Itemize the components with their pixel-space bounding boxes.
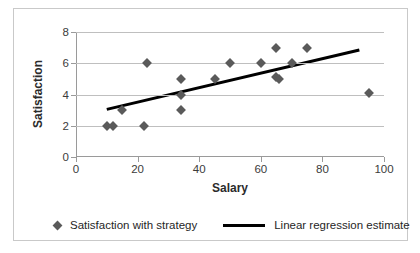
y-axis-tick bbox=[71, 126, 76, 127]
legend-item-regression: Linear regression estimate bbox=[223, 219, 410, 231]
x-axis-tick-label: 60 bbox=[254, 163, 267, 175]
diamond-marker-icon bbox=[53, 220, 63, 230]
chart-frame: Satisfaction Salary 02468020406080100 Sa… bbox=[13, 8, 408, 241]
y-axis-title: Satisfaction bbox=[31, 60, 45, 128]
x-axis-tick-label: 20 bbox=[131, 163, 144, 175]
gridline bbox=[76, 126, 384, 127]
chart-legend: Satisfaction with strategy Linear regres… bbox=[54, 215, 404, 235]
legend-item-scatter: Satisfaction with strategy bbox=[54, 219, 197, 231]
x-axis-tick bbox=[384, 157, 385, 162]
y-axis-tick-label: 6 bbox=[63, 57, 69, 69]
x-axis-tick bbox=[138, 157, 139, 162]
legend-label-scatter: Satisfaction with strategy bbox=[70, 219, 197, 231]
y-axis-tick-label: 8 bbox=[63, 26, 69, 38]
x-axis-tick-label: 100 bbox=[374, 163, 393, 175]
plot-area: 02468020406080100 bbox=[76, 32, 384, 157]
y-axis-tick bbox=[71, 95, 76, 96]
x-axis-tick bbox=[199, 157, 200, 162]
y-axis-tick-label: 4 bbox=[63, 89, 69, 101]
y-axis-tick bbox=[71, 32, 76, 33]
line-swatch-icon bbox=[223, 224, 265, 227]
x-axis-tick-label: 0 bbox=[73, 163, 79, 175]
x-axis-tick bbox=[322, 157, 323, 162]
gridline bbox=[76, 32, 384, 33]
gridline bbox=[76, 95, 384, 96]
scatter-chart-figure: Satisfaction Salary 02468020406080100 Sa… bbox=[0, 0, 420, 253]
x-axis-tick bbox=[261, 157, 262, 162]
x-axis-tick-label: 40 bbox=[193, 163, 206, 175]
y-axis-tick-label: 0 bbox=[63, 151, 69, 163]
legend-label-regression: Linear regression estimate bbox=[274, 219, 410, 231]
y-axis-tick-label: 2 bbox=[63, 120, 69, 132]
y-axis-tick bbox=[71, 63, 76, 64]
x-axis-title: Salary bbox=[212, 181, 248, 195]
x-axis-tick-label: 80 bbox=[316, 163, 329, 175]
x-axis-tick bbox=[76, 157, 77, 162]
